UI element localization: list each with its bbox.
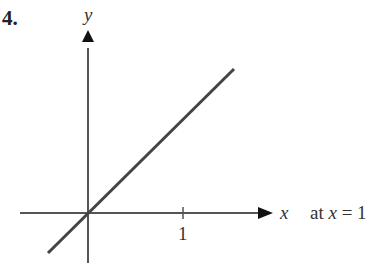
x-axis-label: x	[280, 202, 288, 224]
function-line	[48, 69, 234, 253]
annotation-var: x	[328, 202, 336, 223]
annotation-suffix: = 1	[337, 202, 367, 223]
x-tick-label-1: 1	[178, 223, 188, 245]
x-axis-arrow-icon	[258, 207, 273, 219]
annotation-prefix: at	[310, 202, 328, 223]
annotation: at x = 1	[310, 202, 367, 224]
y-axis-label: y	[84, 4, 92, 26]
y-axis-arrow-icon	[82, 30, 94, 42]
